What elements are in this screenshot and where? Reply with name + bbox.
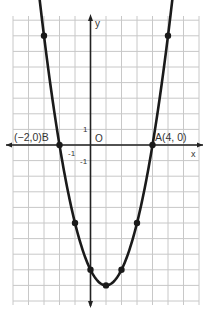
data-point xyxy=(165,33,171,39)
data-point xyxy=(56,142,62,148)
x-axis-label: x xyxy=(191,149,196,159)
data-point xyxy=(72,220,78,226)
data-point xyxy=(118,267,124,273)
data-point xyxy=(134,220,140,226)
y-unit-label: 1 xyxy=(83,125,88,134)
parabola-chart: y x O 1 -1 -1 (−2,0)B A(4, 0) xyxy=(0,0,210,314)
data-point xyxy=(41,33,47,39)
y-neg-unit-label: -1 xyxy=(80,157,88,166)
data-point xyxy=(87,267,93,273)
x-neg-unit-label: -1 xyxy=(68,149,76,158)
point-b-label: (−2,0)B xyxy=(14,131,49,143)
data-point xyxy=(103,282,109,288)
origin-label: O xyxy=(95,133,103,144)
point-a-label: A(4, 0) xyxy=(155,131,187,143)
grid xyxy=(13,16,199,305)
y-axis-label: y xyxy=(95,18,100,29)
